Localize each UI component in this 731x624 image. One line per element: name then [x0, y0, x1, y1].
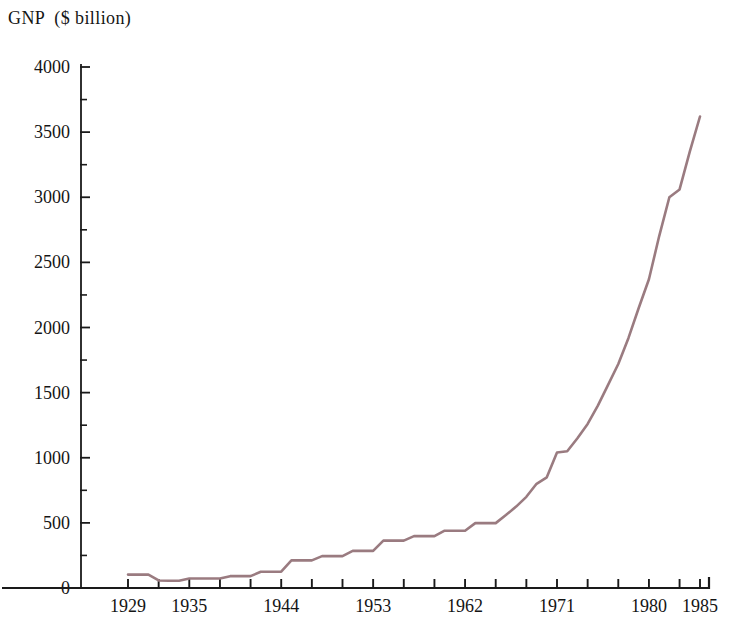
plot-area [0, 0, 731, 624]
gnp-data-line [128, 117, 700, 581]
gnp-line-chart: GNP ($ billion) 050010001500200025003000… [0, 0, 731, 624]
axis-lines [2, 64, 709, 588]
